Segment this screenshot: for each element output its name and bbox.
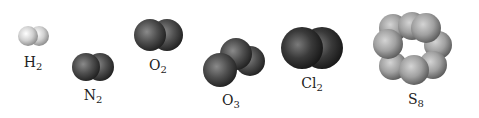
o3-molecule [203,38,265,87]
o2-molecule [134,19,183,51]
s8-label: S8 [408,92,424,109]
n2-label: N2 [84,88,103,105]
h2-molecule [18,26,49,46]
o2-label: O2 [149,58,167,75]
cl2-label: Cl2 [301,76,323,93]
h2-label: H2 [24,55,43,72]
cl2-molecule [281,27,343,69]
n2-molecule [72,53,114,81]
s8-molecule [373,12,452,85]
o3-label: O3 [222,93,240,110]
